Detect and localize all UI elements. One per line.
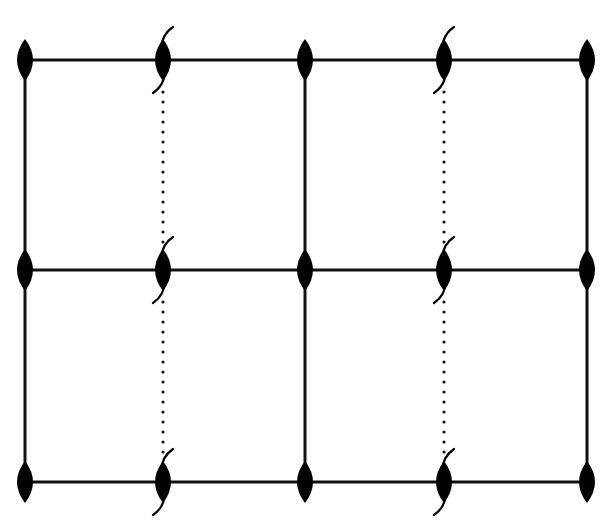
lattice-diagram (0, 0, 614, 524)
